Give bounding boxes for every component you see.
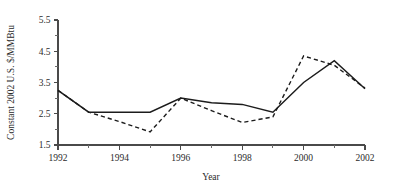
y-tick-label: 5.5 [39, 15, 51, 25]
x-tick-label: 1998 [233, 153, 252, 163]
y-tick-label: 3.5 [39, 78, 51, 88]
y-tick-label: 4.5 [39, 47, 51, 57]
chart-plot-area: 1.52.53.54.55.5 199219941996199820002002… [0, 0, 393, 193]
x-axis-title: Year [202, 172, 220, 182]
data-line-solid [58, 61, 365, 113]
y-tick-label: 2.5 [39, 109, 51, 119]
x-tick-label: 1996 [171, 153, 190, 163]
x-tick-label: 2000 [294, 153, 313, 163]
chart-figure: 1.52.53.54.55.5 199219941996199820002002… [0, 0, 393, 193]
x-tick-label: 1994 [110, 153, 129, 163]
x-tick-label: 1992 [49, 153, 68, 163]
y-axis-tick-labels: 1.52.53.54.55.5 [39, 15, 51, 150]
y-axis-major-ticks [54, 20, 59, 145]
series-group [58, 56, 365, 132]
x-axis-tick-labels: 199219941996199820002002 [49, 153, 375, 163]
y-axis-title: Constant 2002 U.S. $/MMBtu [6, 25, 16, 140]
x-axis-group: 199219941996199820002002 [49, 145, 375, 163]
y-tick-label: 1.5 [39, 140, 51, 150]
y-axis-group: 1.52.53.54.55.5 [39, 15, 58, 150]
data-line-dashed [58, 56, 365, 132]
x-tick-label: 2002 [356, 153, 375, 163]
